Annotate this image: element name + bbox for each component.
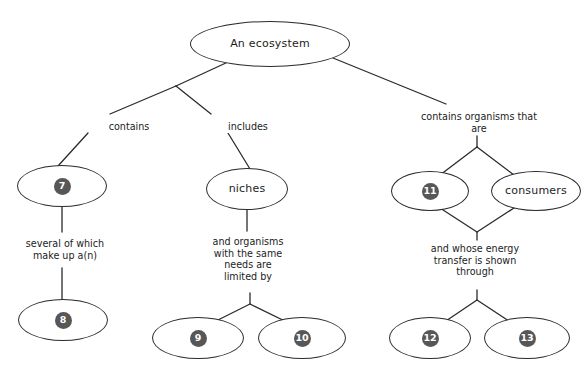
edge-label-and-organisms-limited-by: and organisms with the same needs are li… — [202, 236, 294, 283]
node-8-badge: 8 — [55, 312, 72, 329]
edge-right-fork-to-consumers — [477, 147, 514, 175]
node-consumers[interactable]: consumers — [491, 171, 581, 211]
node-consumers-label: consumers — [505, 185, 567, 197]
edge-label-includes: includes — [211, 121, 285, 133]
edge-contains-to-n7 — [58, 133, 88, 166]
node-12-badge: 12 — [422, 330, 439, 347]
node-7[interactable]: 7 — [17, 165, 107, 207]
concept-map-diagram: An ecosystem 7 niches 11 consumers 8 9 1… — [0, 0, 588, 370]
edge-root-to-left-fork — [176, 62, 228, 86]
edge-label-several-of-which-make-up: several of which make up a(n) — [18, 238, 112, 261]
edge-includes-to-niches — [228, 133, 250, 169]
node-9-badge: 9 — [190, 330, 207, 347]
node-13-badge: 13 — [519, 330, 536, 347]
node-root[interactable]: An ecosystem — [190, 21, 350, 67]
node-7-badge: 7 — [54, 178, 71, 195]
node-10-badge: 10 — [294, 330, 311, 347]
node-11[interactable]: 11 — [391, 171, 469, 211]
node-niches[interactable]: niches — [206, 168, 288, 210]
edge-n11-to-merge — [440, 208, 477, 232]
edge-label-contains: contains — [92, 121, 166, 133]
node-8[interactable]: 8 — [18, 299, 108, 341]
edge-right-fork-to-n11 — [440, 147, 477, 175]
edge-consumers-to-merge — [477, 208, 514, 232]
node-niches-label: niches — [229, 183, 266, 195]
edge-fork-to-contains — [110, 86, 176, 114]
node-10[interactable]: 10 — [258, 317, 346, 359]
edge-root-to-contains-organisms — [333, 58, 446, 104]
edge-label-contains-organisms-that-are: contains organisms that are — [411, 111, 547, 134]
node-9[interactable]: 9 — [152, 317, 244, 359]
edge-label-and-whose-energy-transfer: and whose energy transfer is shown throu… — [423, 243, 527, 278]
node-13[interactable]: 13 — [484, 317, 570, 359]
node-11-badge: 11 — [422, 183, 439, 200]
node-12[interactable]: 12 — [389, 317, 471, 359]
node-root-label: An ecosystem — [230, 38, 310, 50]
edge-fork-to-includes — [176, 86, 211, 114]
